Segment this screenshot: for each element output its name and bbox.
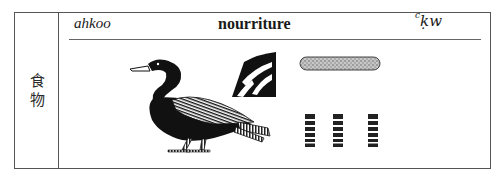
bread-loaf-icon — [300, 57, 380, 70]
hieroglyph-illustration — [0, 0, 503, 181]
tomb-ramp-icon — [232, 52, 276, 97]
plural-strokes-icon — [305, 114, 378, 147]
